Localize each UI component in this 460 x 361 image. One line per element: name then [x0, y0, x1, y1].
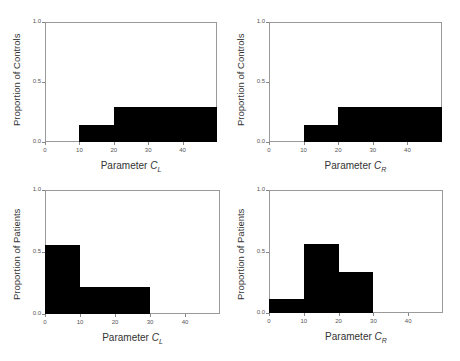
x-tick-mark — [148, 142, 149, 145]
y-tick-mark — [42, 252, 45, 253]
x-tick-label: 20 — [328, 147, 348, 153]
x-tick-mark — [408, 313, 409, 316]
y-tick-label: 1.0 — [23, 18, 41, 24]
histogram-bar — [338, 107, 442, 142]
x-tick-mark — [183, 142, 184, 145]
y-tick-mark — [266, 22, 269, 23]
x-tick-mark — [373, 142, 374, 145]
x-tick-label: 20 — [329, 318, 349, 324]
figure-caption-cutoff — [8, 357, 452, 361]
y-tick-label: 0.5 — [247, 248, 265, 254]
y-tick-mark — [42, 22, 45, 23]
y-tick-mark — [266, 252, 269, 253]
x-tick-label: 0 — [259, 147, 279, 153]
x-tick-label: 10 — [294, 147, 314, 153]
x-axis-label: Parameter CL — [45, 332, 220, 345]
x-tick-label: 20 — [104, 147, 124, 153]
x-tick-label: 10 — [69, 147, 89, 153]
histogram-bar — [269, 299, 304, 313]
x-axis-label: Parameter CL — [45, 160, 217, 173]
x-tick-label: 20 — [105, 319, 125, 325]
x-tick-label: 40 — [397, 147, 417, 153]
x-tick-mark — [45, 142, 46, 145]
x-tick-label: 0 — [259, 318, 279, 324]
histogram-bar — [79, 125, 113, 142]
x-tick-mark — [45, 314, 46, 317]
x-tick-mark — [150, 314, 151, 317]
y-tick-label: 1.0 — [247, 186, 265, 192]
x-tick-mark — [407, 142, 408, 145]
histogram-bar — [304, 244, 339, 313]
x-tick-mark — [80, 314, 81, 317]
histogram-bar — [80, 287, 150, 314]
x-tick-label: 30 — [138, 147, 158, 153]
histogram-bar — [114, 107, 217, 142]
y-tick-mark — [42, 82, 45, 83]
y-tick-label: 0.5 — [247, 78, 265, 84]
y-tick-label: 0.0 — [247, 309, 265, 315]
x-tick-mark — [304, 142, 305, 145]
x-tick-mark — [114, 142, 115, 145]
y-tick-label: 0.5 — [23, 78, 41, 84]
x-tick-label: 40 — [175, 319, 195, 325]
y-axis-label: Proportion of Controls — [11, 34, 22, 126]
x-tick-mark — [304, 313, 305, 316]
histogram-bar — [304, 125, 339, 142]
x-axis-label: Parameter CR — [269, 160, 442, 173]
y-tick-mark — [266, 190, 269, 191]
y-axis-label: Proportion of Patients — [235, 209, 246, 300]
y-tick-label: 0.5 — [23, 248, 41, 254]
y-tick-mark — [266, 82, 269, 83]
x-tick-label: 10 — [294, 318, 314, 324]
x-tick-label: 40 — [173, 147, 193, 153]
y-tick-label: 0.0 — [23, 310, 41, 316]
x-tick-label: 30 — [363, 318, 383, 324]
x-tick-mark — [115, 314, 116, 317]
x-tick-label: 10 — [70, 319, 90, 325]
x-tick-mark — [339, 313, 340, 316]
x-tick-mark — [269, 142, 270, 145]
x-tick-mark — [79, 142, 80, 145]
x-tick-label: 0 — [35, 319, 55, 325]
histogram-bar — [45, 245, 80, 314]
y-tick-label: 1.0 — [23, 186, 41, 192]
x-tick-mark — [338, 142, 339, 145]
x-tick-mark — [269, 313, 270, 316]
y-axis-label: Proportion of Patients — [11, 209, 22, 300]
y-tick-mark — [42, 190, 45, 191]
histogram-bar — [339, 272, 374, 313]
x-tick-mark — [373, 313, 374, 316]
y-axis-label: Proportion of Controls — [235, 34, 246, 126]
x-tick-label: 30 — [140, 319, 160, 325]
y-tick-label: 0.0 — [23, 138, 41, 144]
x-tick-label: 0 — [35, 147, 55, 153]
x-axis-label: Parameter CR — [269, 331, 443, 344]
y-tick-label: 1.0 — [247, 18, 265, 24]
x-tick-label: 30 — [363, 147, 383, 153]
x-tick-label: 40 — [398, 318, 418, 324]
y-tick-label: 0.0 — [247, 138, 265, 144]
x-tick-mark — [185, 314, 186, 317]
